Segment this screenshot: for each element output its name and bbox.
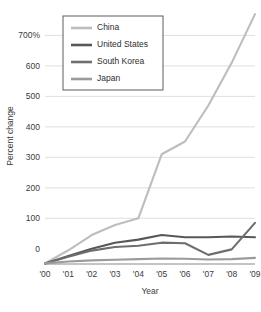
- y-tick-label-700: 700%: [18, 30, 40, 40]
- y-tick-label-600: 600: [26, 61, 40, 71]
- y-tick-label-0: 0: [35, 244, 40, 254]
- y-axis-title: Percent change: [5, 106, 15, 166]
- x-tick-label-5: '05: [156, 269, 167, 279]
- y-tick-label-500: 500: [26, 91, 40, 101]
- series-line-japan: [45, 258, 255, 263]
- line-chart: 0100200300400500600700%'00'01'02'03'04'0…: [0, 0, 261, 312]
- x-tick-label-2: '02: [86, 269, 97, 279]
- legend-label-japan: Japan: [97, 73, 120, 83]
- x-tick-label-3: '03: [109, 269, 120, 279]
- x-tick-label-9: '09: [249, 269, 260, 279]
- y-tick-label-400: 400: [26, 122, 40, 132]
- x-tick-label-8: '08: [226, 269, 237, 279]
- legend-label-china: China: [97, 22, 119, 32]
- x-axis-title: Year: [141, 286, 158, 296]
- x-tick-label-4: '04: [133, 269, 144, 279]
- x-tick-label-6: '06: [179, 269, 190, 279]
- x-tick-label-1: '01: [63, 269, 74, 279]
- y-tick-label-100: 100: [26, 213, 40, 223]
- x-tick-label-7: '07: [203, 269, 214, 279]
- legend-label-south-korea: South Korea: [97, 56, 145, 66]
- chart-canvas: 0100200300400500600700%'00'01'02'03'04'0…: [0, 0, 261, 312]
- y-tick-label-300: 300: [26, 152, 40, 162]
- legend-label-united-states: United States: [97, 39, 148, 49]
- series-line-south-korea: [45, 223, 255, 264]
- x-tick-label-0: '00: [39, 269, 50, 279]
- y-tick-label-200: 200: [26, 183, 40, 193]
